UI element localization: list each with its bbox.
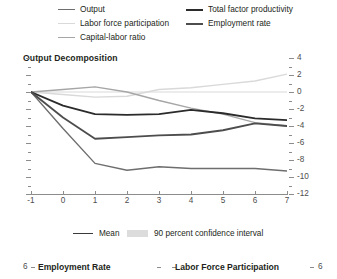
y-tick-mark-right [289,143,294,144]
legend-item-output: Output [58,3,169,16]
legend-swatch-employment-rate [186,23,203,25]
y-minor-tick-mark-right [289,118,292,119]
y-minor-tick-mark-right [289,135,292,136]
y-minor-tick-mark-right [289,67,292,68]
y-tick-mark-left [26,92,31,93]
y-tick-label-right: -10 [297,172,309,181]
y-tick-label-right: 2 [297,70,302,79]
y-minor-tick-mark-right [289,186,292,187]
x-tick-label: 2 [117,196,137,205]
plot-area [31,58,287,194]
x-tick-label: -1 [21,196,41,205]
x-tick-label: 3 [149,196,169,205]
legend-column-right: Total factor productivity Employment rat… [186,3,293,31]
legend-label-total-factor-productivity: Total factor productivity [208,5,293,14]
y-tick-mark-left [26,58,31,59]
y-minor-tick-mark-right [289,101,292,102]
x-tick-label: 6 [245,196,265,205]
x-tick-label: 0 [53,196,73,205]
y-tick-mark-right [289,160,294,161]
x-tick-mark [159,191,160,194]
legend-swatch-confidence-interval [127,230,148,237]
y-tick-mark-left [26,177,31,178]
legend-label-capital-labor-ratio: Capital-labor ratio [80,33,145,42]
y-tick-label-right: -4 [297,121,304,130]
y-tick-mark-left [26,75,31,76]
x-tick-label: 1 [85,196,105,205]
y-tick-mark-right [289,58,294,59]
x-axis-line [31,194,288,195]
y-tick-mark-right [289,92,294,93]
x-tick-label: 7 [277,196,297,205]
x-tick-mark [191,191,192,194]
series-line-employment-rate [31,92,287,139]
y-tick-mark-left [26,126,31,127]
y-tick-label-right: -6 [297,138,304,147]
top-legend: Output Labor force participation Capital… [0,0,337,48]
y-tick-mark-left [26,109,31,110]
y-tick-label-right: -8 [297,155,304,164]
legend-item-total-factor-productivity: Total factor productivity [186,3,293,16]
legend-swatch-capital-labor-ratio [58,37,75,38]
bottom-panel-headers: 6 Employment Rate Labor Force Participat… [0,256,337,279]
legend-swatch-total-factor-productivity [186,9,203,11]
x-tick-mark [223,191,224,194]
legend-label-mean: Mean [99,229,119,238]
x-tick-mark [255,191,256,194]
y-minor-tick-mark-left [28,101,31,102]
y-minor-tick-mark-left [28,186,31,187]
legend-item-employment-rate: Employment rate [186,17,293,30]
legend-swatch-mean [73,233,93,234]
y-tick-mark-right [289,177,294,178]
y-minor-tick-mark-left [28,135,31,136]
y-tick-mark-left [26,160,31,161]
x-tick-label: 4 [181,196,201,205]
series-line-total-factor-productivity [31,92,287,120]
legend-label-labor-force-participation: Labor force participation [80,19,169,28]
y-minor-tick-mark-right [289,152,292,153]
panel-title-employment-rate: Employment Rate [38,262,111,272]
x-tick-mark [31,191,32,194]
y-tick-mark-right [289,109,294,110]
x-tick-mark [287,191,288,194]
y-minor-tick-mark-left [28,84,31,85]
y-tick-mark-right [289,75,294,76]
y-minor-tick-mark-left [28,118,31,119]
series-line-output [31,92,287,171]
panel-tick-mark-left [31,267,35,268]
legend-item-confidence-interval: 90 percent confidence interval [127,229,263,238]
panel-tick-mark-right [310,267,314,268]
y-minor-tick-mark-left [28,152,31,153]
legend-swatch-labor-force-participation [58,23,75,24]
series-canvas [31,58,287,194]
y-minor-tick-mark-right [289,169,292,170]
x-tick-mark [95,191,96,194]
legend-column-left: Output Labor force participation Capital… [58,3,169,45]
legend-label-output: Output [80,5,105,14]
y-tick-label-right: -2 [297,104,304,113]
legend-label-confidence-interval: 90 percent confidence interval [154,229,263,238]
y-tick-label-right: -12 [297,189,309,198]
mean-ci-legend: Mean 90 percent confidence interval [0,225,337,247]
y-tick-mark-right [289,126,294,127]
y-tick-label-right: 0 [297,87,302,96]
panel-tick-label-right: 6 [318,262,323,271]
x-tick-mark [127,191,128,194]
output-decomposition-chart: Output Decomposition -101234567 420-2-4-… [0,50,337,215]
legend-swatch-output [58,9,75,10]
y-minor-tick-mark-left [28,67,31,68]
series-line-labor-force-participation [31,74,287,97]
y-minor-tick-mark-left [28,169,31,170]
panel-tick-mark-mid-1 [157,267,161,268]
x-tick-label: 5 [213,196,233,205]
legend-item-mean: Mean [73,229,119,238]
y-minor-tick-mark-right [289,84,292,85]
panel-tick-label-left: 6 [23,262,28,271]
y-tick-label-right: 4 [297,53,302,62]
panel-title-labor-force-participation: Labor Force Participation [175,262,279,272]
y-tick-mark-right [289,194,294,195]
legend-label-employment-rate: Employment rate [208,19,271,28]
y-tick-mark-left [26,194,31,195]
legend-item-capital-labor-ratio: Capital-labor ratio [58,31,169,44]
legend-item-labor-force-participation: Labor force participation [58,17,169,30]
